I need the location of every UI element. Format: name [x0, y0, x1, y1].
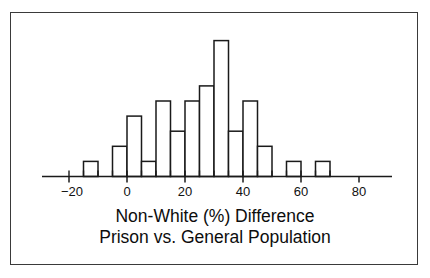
- x-tick-label-20: 20: [178, 184, 192, 199]
- histogram-figure: −20 0 20 40 60 80 Non-White (%) Differen…: [0, 0, 430, 278]
- histogram-bar: [127, 116, 142, 176]
- histogram-svg: −20 0 20 40 60 80 Non-White (%) Differen…: [0, 0, 430, 278]
- histogram-bar: [171, 131, 186, 176]
- x-axis-major-ticks: [69, 177, 359, 183]
- x-tick-label-80: 80: [352, 184, 366, 199]
- histogram-bars: [84, 41, 331, 177]
- axis-title-line2: Prison vs. General Population: [99, 227, 331, 247]
- plot-area: −20 0 20 40 60 80 Non-White (%) Differen…: [0, 0, 430, 278]
- histogram-bar: [316, 161, 331, 176]
- histogram-bar: [214, 41, 229, 177]
- x-tick-label-40: 40: [236, 184, 250, 199]
- histogram-bar: [287, 161, 302, 176]
- histogram-bar: [229, 131, 244, 176]
- x-tick-label-60: 60: [294, 184, 308, 199]
- histogram-bar: [200, 86, 215, 177]
- histogram-bar: [156, 101, 171, 177]
- histogram-bar: [243, 101, 258, 177]
- histogram-bar: [142, 161, 157, 176]
- histogram-bar: [258, 146, 273, 176]
- histogram-bar: [185, 101, 200, 177]
- x-tick-label-minus20: −20: [61, 184, 83, 199]
- histogram-bar: [84, 161, 99, 176]
- histogram-bar: [113, 146, 128, 176]
- axis-title-line1: Non-White (%) Difference: [115, 206, 314, 226]
- x-tick-label-0: 0: [123, 184, 130, 199]
